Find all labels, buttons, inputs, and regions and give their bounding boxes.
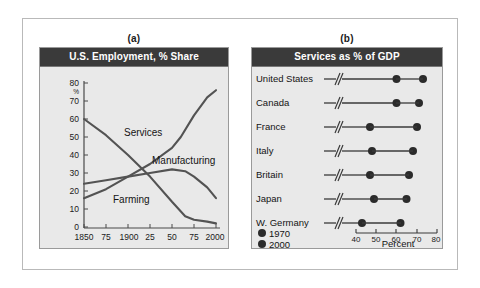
panel-b-title: Services as % of GDP bbox=[252, 48, 442, 67]
panel-b-box: Services as % of GDP United States bbox=[251, 47, 443, 249]
panel-b-category-4: Britain bbox=[256, 169, 283, 180]
panel-b-letter: (b) bbox=[251, 33, 443, 47]
panel-a-xtick-1875: 75 bbox=[101, 232, 111, 242]
panel-a-ytick-30: 30 bbox=[70, 168, 80, 178]
panel-b: (b) Services as % of GDP United States bbox=[251, 33, 443, 249]
panel-a-box: U.S. Employment, % Share bbox=[39, 47, 229, 249]
panel-b-category-0: United States bbox=[256, 73, 313, 84]
panel-a-plot-area: 80 % 70 60 50 40 30 20 10 0 bbox=[40, 67, 228, 248]
panel-a-title: U.S. Employment, % Share bbox=[40, 48, 228, 67]
panel-a-xtick-1850: 1850 bbox=[75, 232, 94, 242]
panel-a-xtick-1950: 50 bbox=[167, 232, 177, 242]
panel-b-xtick-40: 40 bbox=[352, 235, 361, 244]
panel-a: (a) U.S. Employment, % Share bbox=[39, 33, 229, 249]
panel-a-ytick-40: 40 bbox=[70, 150, 80, 160]
panel-b-legend-label-1970: 1970 bbox=[269, 228, 290, 239]
panel-a-ytick-20: 20 bbox=[70, 186, 80, 196]
panel-a-ytick-50: 50 bbox=[70, 132, 80, 142]
panel-b-plot-area: United States Canada bbox=[252, 67, 442, 248]
panel-b-legend-dot-2000 bbox=[258, 240, 266, 248]
panel-a-ytick-70: 70 bbox=[70, 96, 80, 106]
panel-a-xtick-1975: 75 bbox=[189, 232, 199, 242]
panel-b-category-1: Canada bbox=[256, 97, 290, 108]
panel-b-category-3: Italy bbox=[256, 145, 274, 156]
panel-b-xtick-50: 50 bbox=[372, 235, 381, 244]
figure-root: (a) U.S. Employment, % Share bbox=[0, 0, 480, 288]
panel-b-legend-label-2000: 2000 bbox=[269, 239, 290, 249]
panel-a-letter: (a) bbox=[39, 33, 229, 47]
panel-b-category-6: W. Germany bbox=[256, 217, 309, 228]
panel-a-xtick-1925: 25 bbox=[145, 232, 155, 242]
panel-b-category-2: France bbox=[256, 121, 286, 132]
panel-b-chart-svg: United States Canada bbox=[252, 67, 442, 248]
panel-a-ytick-60: 60 bbox=[70, 114, 80, 124]
panel-a-ytick-0: 0 bbox=[74, 222, 79, 232]
panel-a-label-manufacturing: Manufacturing bbox=[152, 155, 215, 166]
panel-a-label-farming: Farming bbox=[113, 194, 150, 205]
panel-b-axis-title: Percent bbox=[382, 238, 415, 248]
panel-a-xtick-2000: 2000 bbox=[206, 232, 225, 242]
panel-a-ytick-80: 80 bbox=[70, 78, 80, 88]
panel-a-chart-svg: 80 % 70 60 50 40 30 20 10 0 bbox=[40, 67, 228, 248]
panel-b-legend-dot-1970 bbox=[258, 229, 266, 237]
panel-b-category-5: Japan bbox=[256, 193, 282, 204]
panel-b-xtick-80: 80 bbox=[432, 235, 441, 244]
figure-frame: (a) U.S. Employment, % Share bbox=[22, 18, 458, 270]
panel-a-label-services: Services bbox=[124, 127, 162, 138]
panel-a-ytick-10: 10 bbox=[70, 204, 80, 214]
panel-a-percent-symbol: % bbox=[73, 88, 79, 95]
panel-a-xtick-1900: 1900 bbox=[120, 232, 139, 242]
